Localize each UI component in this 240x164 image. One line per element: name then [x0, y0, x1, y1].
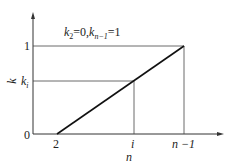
- y-tick-1: 1: [24, 40, 30, 52]
- x-axis-label: n: [126, 151, 132, 163]
- y-tick-ki: ki: [21, 75, 29, 90]
- y-axis-label: k: [6, 78, 18, 83]
- x-tick-n1: n −1: [172, 138, 195, 150]
- y-tick-0: 0: [24, 129, 30, 141]
- annotation: k2=0,kn−1=1: [64, 26, 121, 41]
- x-tick-i: i: [131, 138, 134, 150]
- annotation-mid: =0,: [73, 25, 89, 39]
- annotation-end: =1: [108, 25, 121, 39]
- y-tick-ki-sub: i: [26, 81, 28, 90]
- x-tick-2: 2: [53, 138, 59, 150]
- y-axis-arrow-icon: [31, 12, 35, 19]
- data-line: [57, 46, 184, 134]
- x-axis-arrow-icon: [217, 132, 224, 136]
- annotation-sub2: n−1: [94, 32, 107, 41]
